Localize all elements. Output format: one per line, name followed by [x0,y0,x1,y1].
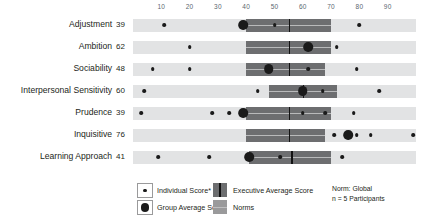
executive-band-icon [213,183,227,197]
individual-score-dot [140,111,144,115]
individual-score-dot [143,89,147,93]
score-track [133,19,416,32]
scale-row: Prudence39 [0,104,421,126]
executive-average-line [289,129,290,142]
group-average-dot [239,20,249,30]
axis-tick-50: 50 [271,3,279,10]
scale-label-ambition: Ambition62 [0,41,125,51]
individual-score-dot [355,133,359,137]
norm-note-line2: n = 5 Participants [332,194,385,204]
scale-name: Learning Approach [40,151,112,161]
individual-score-dot [208,155,212,159]
axis-tick-80: 80 [356,3,364,10]
scale-row: Learning Approach41 [0,148,421,170]
individual-score-dot [227,111,231,115]
norms-band-icon [213,200,227,214]
scale-row: Sociability48 [0,60,421,82]
executive-average-line [289,41,290,54]
scale-label-adjustment: Adjustment39 [0,19,125,29]
individual-score-dot [278,155,282,159]
individual-score-dot [256,89,260,93]
norms-midline-glyph [213,207,227,208]
score-track [133,85,416,98]
individual-score-dot [151,67,155,71]
individual-score-dot [377,89,381,93]
score-track [133,129,416,142]
chart-legend: Individual Score*Group Average Score Exe… [0,182,421,223]
individual-score-dot [335,45,339,49]
individual-score-dot [341,155,345,159]
group-average-dot [343,130,353,140]
group-average-dot [244,152,254,162]
scale-score: 39 [116,108,125,117]
score-track [133,41,416,54]
scale-name: Adjustment [69,19,112,29]
group-average-dot [304,42,314,52]
individual-score-dot [307,67,311,71]
scale-label-inquisitive: Inquisitive76 [0,129,125,139]
dot-glyph [143,189,146,192]
axis-tick-20: 20 [186,3,194,10]
individual-score-dot [273,23,277,27]
group-average-dot [239,108,249,118]
band-midline [246,135,325,136]
scale-name: Inquisitive [74,129,112,139]
individual-score-dot [210,111,214,115]
executive-average-line [291,151,292,164]
individual-score-dot [355,67,359,71]
executive-average-line [289,63,290,76]
hogan-profile-chart: 102030405060708090 Adjustment39Ambition6… [0,0,421,223]
scale-name: Ambition [79,41,112,51]
axis-tick-90: 90 [384,3,392,10]
individual-score-dot [188,67,192,71]
individual-score-dot [324,111,328,115]
legend-label: Norms [233,203,254,212]
group-average-dot [264,64,274,74]
legend-label: Individual Score* [157,186,211,195]
individual-score-dot [332,133,336,137]
individual-score-dot [157,155,161,159]
scale-score: 62 [116,42,125,51]
scale-name: Sociability [73,63,112,73]
median-line-glyph [219,183,220,197]
scale-score: 39 [116,20,125,29]
score-track [133,107,416,120]
axis-tick-60: 60 [299,3,307,10]
individual-score-dot [162,23,166,27]
scale-name: Prudence [75,107,112,117]
score-track [133,63,416,76]
scale-label-sociability: Sociability48 [0,63,125,73]
scale-score: 60 [116,86,125,95]
percentile-axis: 102030405060708090 [133,0,416,16]
scale-label-interpersonal-sensitivity: Interpersonal Sensitivity60 [0,85,125,95]
axis-tick-10: 10 [157,3,165,10]
dot-glyph [141,203,150,212]
scale-label-prudence: Prudence39 [0,107,125,117]
executive-average-line [289,107,290,120]
individual-score-dot [358,23,362,27]
axis-tick-30: 30 [214,3,222,10]
axis-tick-40: 40 [242,3,250,10]
individual-score-dot [301,111,305,115]
band-midline [249,157,331,158]
scale-label-learning-approach: Learning Approach41 [0,151,125,161]
scale-score: 41 [116,152,125,161]
individual-score-dot [352,111,356,115]
group-average-icon [137,200,153,215]
group-average-dot [298,86,308,96]
scale-row: Adjustment39 [0,16,421,38]
scale-row: Ambition62 [0,38,421,60]
band-midline [246,69,325,70]
scale-rows: Adjustment39Ambition62Sociability48Inter… [0,16,421,170]
legend-label: Executive Average Score [233,186,313,195]
scale-row: Inquisitive76 [0,126,421,148]
individual-score-dot [411,133,415,137]
scale-row: Interpersonal Sensitivity60 [0,82,421,104]
scale-score: 48 [116,64,125,73]
norm-note-line1: Norm: Global [332,184,385,194]
scale-score: 76 [116,130,125,139]
score-track [133,151,416,164]
individual-score-dot [321,89,325,93]
executive-average-line [289,19,290,32]
individual-score-icon [137,183,153,198]
